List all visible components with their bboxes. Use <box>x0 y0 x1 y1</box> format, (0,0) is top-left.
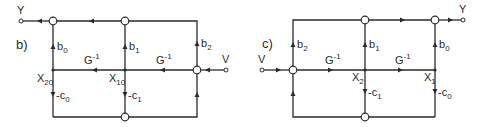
sum-node-b <box>49 17 57 25</box>
input-label: V <box>258 53 266 65</box>
integrator-g1: G-1 <box>325 52 341 66</box>
arrow-right-icon <box>276 68 281 73</box>
output-terminal-c <box>461 18 465 22</box>
arrow-up-icon <box>123 44 128 49</box>
panel-label: b) <box>16 37 28 52</box>
sum-node-c <box>289 66 297 74</box>
input-terminal-b <box>224 68 228 72</box>
arrow-up-icon <box>195 41 200 46</box>
arrow-right-icon <box>398 68 403 73</box>
integrator-g2: G-1 <box>156 52 172 66</box>
output-terminal-b <box>19 19 23 23</box>
input-label: V <box>222 53 230 65</box>
diagram-b: Y V b) b0 b1 b2 G-1 G-1 -c0 -c1 X20 X10 <box>16 4 230 121</box>
gain-b2: b2 <box>297 38 308 53</box>
arrow-up-icon <box>363 42 368 47</box>
gain-b2: b2 <box>201 37 212 52</box>
arrow-up-icon <box>195 92 200 97</box>
arrow-right-icon <box>328 68 333 73</box>
sum-node-c <box>431 16 439 24</box>
gain-b0: b0 <box>439 38 450 53</box>
gain-b1: b1 <box>129 40 140 55</box>
state-x2: X2 <box>352 71 364 86</box>
sum-node-b <box>121 113 129 121</box>
signal-flow-diagrams: Y V b) b0 b1 b2 G-1 G-1 -c0 -c1 X20 X10 <box>0 0 479 127</box>
arrow-down-icon <box>433 89 438 94</box>
state-x10: X10 <box>109 72 126 87</box>
integrator-g1: G-1 <box>84 52 100 66</box>
arrow-right-icon <box>448 18 453 23</box>
junction-dot <box>433 68 436 71</box>
diagram-c: Y V c) b2 b1 b0 G-1 G-1 -c1 -c0 X2 X1 <box>258 3 467 121</box>
wire-bottom-left-c <box>293 74 361 117</box>
integrator-g2: G-1 <box>395 52 411 66</box>
arrow-up-icon <box>291 42 296 47</box>
junction-dot <box>363 68 366 71</box>
arrow-up-icon <box>291 91 296 96</box>
junction-dot <box>51 68 54 71</box>
feedback-c0: -c0 <box>56 89 70 104</box>
arrow-left-icon <box>89 19 94 24</box>
state-x20: X20 <box>37 72 54 87</box>
output-label: Y <box>459 3 467 15</box>
arrow-down-icon <box>123 92 128 97</box>
arrow-up-icon <box>433 42 438 47</box>
feedback-c1: -c1 <box>128 89 142 104</box>
output-label: Y <box>17 4 25 16</box>
arrow-left-icon <box>92 68 97 73</box>
gain-b1: b1 <box>369 38 380 53</box>
sum-node-c <box>361 16 369 24</box>
feedback-c1: -c1 <box>368 86 382 101</box>
feedback-c0: -c0 <box>438 86 452 101</box>
panel-label: c) <box>262 36 273 51</box>
arrow-up-icon <box>51 44 56 49</box>
arrow-down-icon <box>363 89 368 94</box>
arrow-left-icon <box>205 68 210 73</box>
gain-b0: b0 <box>57 40 68 55</box>
sum-node-b <box>121 17 129 25</box>
arrow-left-icon <box>160 68 165 73</box>
arrow-down-icon <box>51 92 56 97</box>
junction-dot <box>123 68 126 71</box>
input-terminal-c <box>260 68 264 72</box>
arrow-right-icon <box>400 18 405 23</box>
sum-node-c <box>361 113 369 121</box>
sum-node-b <box>193 66 201 74</box>
arrow-left-icon <box>37 19 42 24</box>
